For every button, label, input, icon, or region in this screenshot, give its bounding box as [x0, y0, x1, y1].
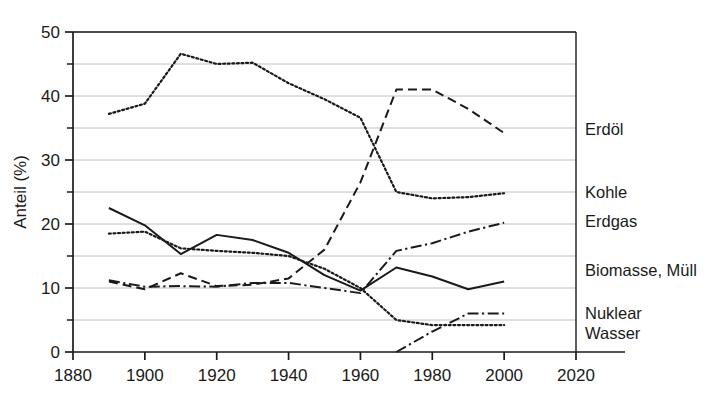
gridlines	[73, 32, 576, 320]
series-labels: ErdölKohleErdgasBiomasse, MüllNuklearWas…	[585, 120, 697, 342]
series-line-erdgas	[109, 223, 504, 293]
x-tick-label: 1920	[198, 366, 236, 385]
series-line-kohle	[109, 54, 504, 199]
x-tick-label: 2000	[485, 366, 523, 385]
y-tick-label: 0	[51, 343, 60, 362]
x-tick-label: 1980	[413, 366, 451, 385]
x-tick-label: 1940	[270, 366, 308, 385]
series-label-nuklear: Nuklear	[585, 304, 642, 322]
series-line-nuklear	[396, 314, 504, 352]
series-label-erdgas: Erdgas	[585, 212, 637, 230]
y-tick-label: 30	[41, 151, 60, 170]
x-tick-label: 1880	[54, 366, 92, 385]
x-tick-label: 2020	[557, 366, 595, 385]
y-tick-label: 20	[41, 215, 60, 234]
y-tick-label: 10	[41, 279, 60, 298]
chart-figure: 0102030405018801900192019401960198020002…	[0, 0, 713, 411]
series-line-erd-l	[109, 90, 504, 290]
series-lines	[109, 54, 504, 352]
y-axis-title: Anteil (%)	[11, 155, 30, 229]
y-tick-label: 50	[41, 23, 60, 42]
energy-share-line-chart: 0102030405018801900192019401960198020002…	[0, 0, 713, 411]
x-tick-label: 1900	[126, 366, 164, 385]
series-label-kohle: Kohle	[585, 183, 627, 201]
series-label-erd-l: Erdöl	[585, 120, 624, 138]
y-tick-label: 40	[41, 87, 60, 106]
x-axis-ticks: 18801900192019401960198020002020	[54, 352, 595, 385]
series-label-wasser: Wasser	[585, 324, 641, 342]
series-label-biomasse-m-ll: Biomasse, Müll	[585, 261, 697, 279]
y-axis-ticks: 01020304050	[41, 23, 73, 362]
x-tick-label: 1960	[342, 366, 380, 385]
